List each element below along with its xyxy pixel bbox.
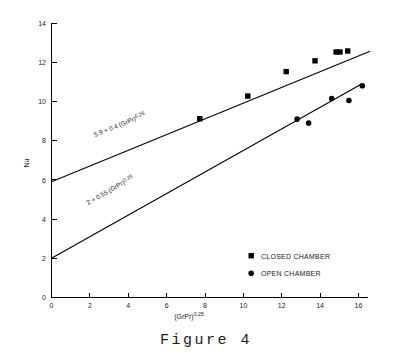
fit-label-open-exponent: 0.25 <box>122 173 134 183</box>
data-point <box>197 116 202 121</box>
fit-line-open-chamber <box>52 84 363 259</box>
legend-label-closed-chamber: CLOSED CHAMBER <box>261 253 330 260</box>
x-tick-label-16: 16 <box>355 302 363 309</box>
x-axis-title-exponent: 0.25 <box>194 311 204 317</box>
x-tick-labels: 0 2 4 6 8 10 12 14 16 <box>50 302 363 309</box>
legend-marker-square-icon <box>249 253 254 258</box>
y-axis-title: Nu <box>23 158 30 167</box>
data-point <box>345 48 350 53</box>
legend-marker-circle-icon <box>248 271 254 277</box>
x-tick-label-6: 6 <box>165 302 169 309</box>
fit-lines-group <box>52 51 371 258</box>
fit-label-open-chamber: 2 + 0.55 (GrPr)0.25 <box>84 173 135 207</box>
legend: CLOSED CHAMBER OPEN CHAMBER <box>248 253 330 278</box>
x-tick-label-8: 8 <box>203 302 207 309</box>
data-point <box>329 96 335 102</box>
x-tick-label-12: 12 <box>278 302 286 309</box>
data-point <box>346 98 352 104</box>
fit-line-closed-chamber <box>52 51 371 181</box>
data-point <box>245 93 250 98</box>
legend-label-open-chamber: OPEN CHAMBER <box>261 270 321 277</box>
x-tick-label-2: 2 <box>88 302 92 309</box>
y-tick-label-12: 12 <box>38 59 46 66</box>
data-point <box>360 83 366 89</box>
x-axis-title-base: (GrPr) <box>174 313 193 321</box>
figure-caption: Figure 4 <box>0 332 412 349</box>
y-tick-label-14: 14 <box>38 20 46 27</box>
x-tick-label-4: 4 <box>126 302 130 309</box>
data-point <box>294 116 300 122</box>
x-tick-label-14: 14 <box>316 302 324 309</box>
data-point <box>337 49 342 54</box>
y-tick-labels: 0 2 4 6 8 10 12 14 <box>38 20 46 302</box>
y-tick-label-0: 0 <box>42 294 46 301</box>
series-closed-chamber-points <box>197 48 350 121</box>
fit-label-open-base: 2 + 0.55 (GrPr) <box>85 179 126 207</box>
scatter-plot: 0 2 4 6 8 10 12 14 0 2 4 6 8 <box>0 0 412 362</box>
figure-container: 0 2 4 6 8 10 12 14 0 2 4 6 8 <box>0 0 412 362</box>
x-tick-label-0: 0 <box>50 302 54 309</box>
fit-label-closed-exponent: 0.25 <box>134 110 146 119</box>
x-tick-group <box>52 293 359 298</box>
y-tick-label-8: 8 <box>42 137 46 144</box>
x-axis-title: (GrPr)0.25 <box>174 311 204 321</box>
fit-label-closed-chamber: 5.9 + 0.4 (GrPr)0.25 <box>92 110 146 139</box>
y-tick-label-2: 2 <box>42 255 46 262</box>
data-point <box>306 120 312 126</box>
y-tick-label-4: 4 <box>42 216 46 223</box>
y-tick-label-10: 10 <box>38 98 46 105</box>
series-open-chamber-points <box>294 83 365 126</box>
y-tick-label-6: 6 <box>42 177 46 184</box>
data-point <box>312 58 317 63</box>
x-tick-label-10: 10 <box>240 302 248 309</box>
data-point <box>284 69 289 74</box>
fit-label-closed-base: 5.9 + 0.4 (GrPr) <box>93 115 137 139</box>
